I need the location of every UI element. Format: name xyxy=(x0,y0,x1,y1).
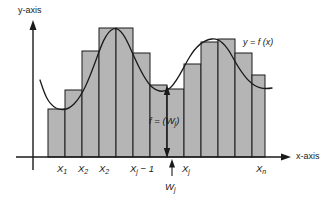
bar xyxy=(235,53,252,157)
tick-label-xj-minus-1: Xj − 1 xyxy=(130,164,154,174)
bar xyxy=(99,28,116,157)
bar xyxy=(65,90,82,157)
tick-subscript: j xyxy=(136,168,138,175)
tick-label-xj: Xj xyxy=(182,164,190,174)
bar xyxy=(184,64,201,157)
height-annotation-w: W xyxy=(166,115,175,126)
y-axis-arrowhead xyxy=(30,20,37,30)
tick-subscript: j xyxy=(188,168,190,175)
tick-label-xn: Xn xyxy=(256,164,266,174)
x-axis-label: x-axis xyxy=(296,152,320,161)
width-annotation-subscript: j xyxy=(174,186,176,193)
bar xyxy=(48,109,65,157)
width-measure-arrow xyxy=(169,159,175,176)
tick-subscript: 1 xyxy=(63,168,67,175)
tick-label-x2: X2 xyxy=(78,164,88,174)
bar xyxy=(201,42,218,157)
tick-suffix: − 1 xyxy=(138,163,154,174)
tick-subscript: 2 xyxy=(84,168,88,175)
curve-equation-label: y = f (x) xyxy=(243,38,273,47)
tick-subscript: n xyxy=(262,168,266,175)
height-annotation-subscript: j xyxy=(175,120,177,127)
width-annotation-w: W xyxy=(165,181,174,192)
bar xyxy=(82,51,99,157)
y-axis xyxy=(30,20,37,170)
riemann-rectangles xyxy=(48,28,265,157)
figure-canvas xyxy=(0,0,334,210)
tick-subscript: 2 xyxy=(105,168,109,175)
height-annotation-suffix: ) xyxy=(176,115,179,126)
bar xyxy=(133,53,150,157)
tick-label-x1: X1 xyxy=(57,164,67,174)
width-arrow-head xyxy=(169,159,175,168)
width-annotation-label: Wj xyxy=(165,182,176,192)
riemann-sum-figure: y-axis x-axis y = f (x) f = (Wj) Wj X1 X… xyxy=(0,0,334,210)
height-annotation-equals: = ( xyxy=(152,115,166,126)
x-axis-arrowhead xyxy=(281,154,291,161)
height-annotation-label: f = (Wj) xyxy=(149,116,179,126)
tick-label-x3: X2 xyxy=(99,164,109,174)
y-axis-label: y-axis xyxy=(18,6,42,15)
